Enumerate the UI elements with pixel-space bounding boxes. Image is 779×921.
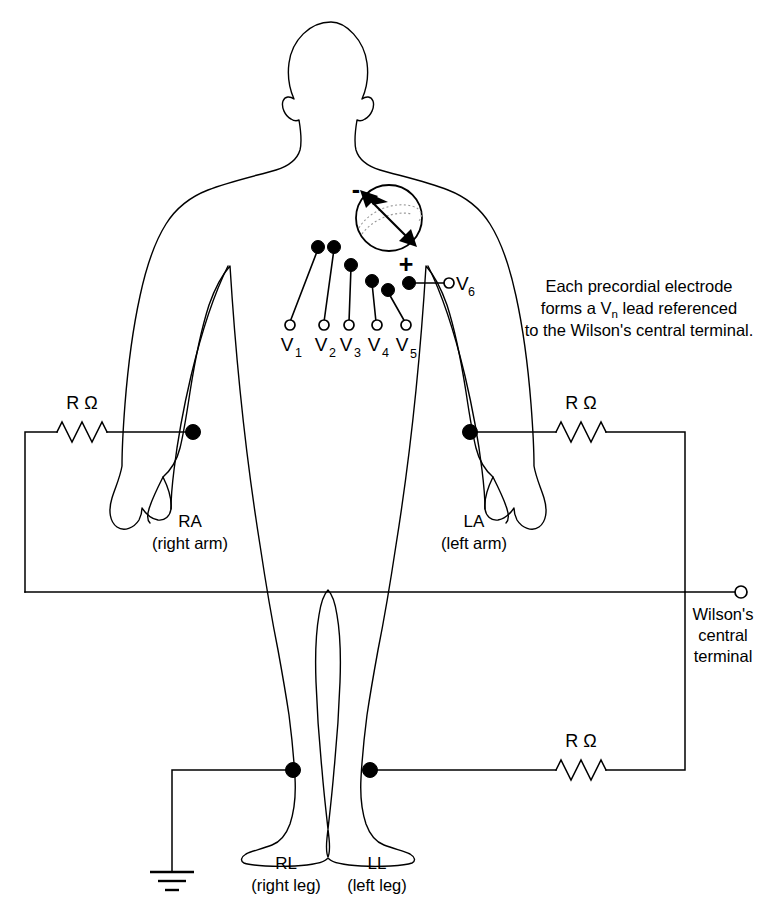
ll-resistor-label: R Ω <box>565 731 596 751</box>
rl-label-code: RL <box>275 854 297 873</box>
v3-lead-wire <box>349 267 351 322</box>
ll-label-code: LL <box>368 854 387 873</box>
v2-terminal[interactable] <box>319 320 329 330</box>
v3-label: V <box>340 334 353 355</box>
annotation-line-2-a: forms a V <box>541 299 612 317</box>
heart-positive-sign: + <box>399 250 414 278</box>
ll-wire-to-rail <box>606 592 685 770</box>
v1-label: V <box>281 334 294 355</box>
v5-terminal[interactable] <box>401 320 411 330</box>
v1-lead-wire <box>290 249 318 322</box>
v4-label: V <box>368 334 381 355</box>
v4-terminal[interactable] <box>372 320 382 330</box>
v3-chest-electrode[interactable] <box>345 259 358 272</box>
wilson-label-line2: central <box>698 626 748 644</box>
v6-terminal[interactable] <box>444 278 454 288</box>
v3-terminal[interactable] <box>344 320 354 330</box>
la-resistor-symbol <box>556 422 606 442</box>
limb-lead-circuit: R Ω R Ω R Ω <box>25 393 747 890</box>
heart-hatch <box>359 205 421 228</box>
v1-terminal[interactable] <box>285 320 295 330</box>
v1-label-subscript: 1 <box>295 346 302 360</box>
la-electrode[interactable] <box>463 425 478 440</box>
v3-label-subscript: 3 <box>354 346 361 360</box>
limb-electrodes-group <box>186 425 478 778</box>
ra-resistor-label: R Ω <box>66 393 97 413</box>
v4-lead-wire <box>372 283 376 322</box>
ll-resistor-symbol <box>556 760 606 780</box>
ecg-wilson-central-terminal-diagram: - + V 1 V 2 <box>0 0 779 921</box>
ll-label-description: (left leg) <box>347 876 407 894</box>
annotation-line-2-b: lead referenced <box>618 299 737 317</box>
v1-chest-electrode[interactable] <box>312 241 325 254</box>
v2-chest-electrode[interactable] <box>328 241 341 254</box>
v2-label: V <box>315 334 328 355</box>
ra-electrode[interactable] <box>186 425 201 440</box>
rl-label-description: (right leg) <box>251 876 321 894</box>
precordial-annotation: Each precordial electrode forms a Vn lea… <box>525 277 754 339</box>
annotation-line-3: to the Wilson's central terminal. <box>525 321 754 339</box>
ra-label-description: (right arm) <box>152 534 228 552</box>
ra-label-code: RA <box>178 512 202 531</box>
ra-wire-to-bus <box>25 432 57 592</box>
ra-resistor-symbol <box>57 422 107 442</box>
v4-chest-electrode[interactable] <box>366 275 379 288</box>
la-wire-to-bus <box>606 432 685 592</box>
la-resistor-label: R Ω <box>565 393 596 413</box>
v5-chest-electrode[interactable] <box>382 284 395 297</box>
annotation-line-2: forms a Vn lead referenced <box>541 299 737 320</box>
annotation-line-1: Each precordial electrode <box>545 277 732 295</box>
v6-label-subscript: 6 <box>468 285 475 299</box>
v6-chest-electrode[interactable] <box>403 277 416 290</box>
wilsons-central-terminal-node[interactable] <box>735 586 747 598</box>
ll-electrode[interactable] <box>363 763 378 778</box>
wilson-label-line1: Wilson's <box>693 605 754 623</box>
diagram-canvas: - + V 1 V 2 <box>0 0 779 921</box>
v2-label-subscript: 2 <box>329 346 336 360</box>
precordial-lead-v2[interactable]: V 2 <box>315 241 341 361</box>
precordial-lead-v3[interactable]: V 3 <box>340 259 361 361</box>
la-label-description: (left arm) <box>441 534 507 552</box>
la-label-code: LA <box>464 512 485 531</box>
wilsons-central-terminal-label: Wilson's central terminal <box>693 605 754 665</box>
rl-electrode[interactable] <box>286 763 301 778</box>
ground-symbol <box>150 872 194 890</box>
heart-negative-sign: - <box>352 175 360 203</box>
v4-label-subscript: 4 <box>382 346 389 360</box>
v2-lead-wire <box>324 249 334 322</box>
v5-label: V <box>396 334 409 355</box>
v5-label-subscript: 5 <box>410 347 417 361</box>
human-body-outline <box>110 22 546 866</box>
heart-dipole: - + <box>352 175 422 278</box>
wilson-label-line3: terminal <box>694 647 753 665</box>
